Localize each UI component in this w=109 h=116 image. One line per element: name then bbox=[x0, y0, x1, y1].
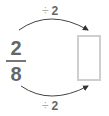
divide-icon: ÷ bbox=[42, 99, 49, 113]
bottom-divisor: 2 bbox=[52, 99, 59, 113]
answer-box[interactable] bbox=[77, 35, 101, 81]
top-divisor: 2 bbox=[52, 4, 59, 18]
divide-icon: ÷ bbox=[42, 4, 49, 18]
denominator: 8 bbox=[5, 64, 27, 84]
bottom-arrow bbox=[21, 86, 88, 96]
top-arrow bbox=[19, 19, 88, 30]
fraction: 2 8 bbox=[5, 38, 27, 84]
top-operation-label: ÷2 bbox=[42, 4, 58, 18]
fraction-bar bbox=[6, 60, 26, 62]
numerator: 2 bbox=[5, 38, 27, 58]
bottom-operation-label: ÷2 bbox=[42, 99, 58, 113]
